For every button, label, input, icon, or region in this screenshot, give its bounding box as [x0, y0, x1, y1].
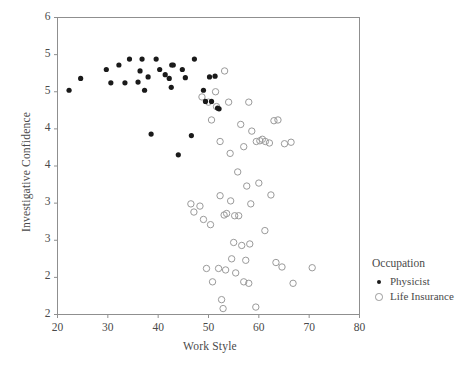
data-point [127, 56, 132, 61]
data-point [189, 133, 194, 138]
data-point [288, 139, 294, 145]
data-point [167, 76, 172, 81]
data-point [239, 242, 245, 248]
scatter-plot-figure: Investigative Confidence Work Style 6554… [0, 0, 471, 370]
x-tick-label: 70 [296, 321, 322, 333]
data-point [176, 152, 181, 157]
data-point [238, 121, 244, 127]
data-point [116, 62, 121, 67]
data-point [266, 140, 272, 146]
data-point [203, 99, 208, 104]
data-point [228, 256, 234, 262]
y-tick-label: 2 [25, 307, 51, 319]
data-point [230, 239, 236, 245]
data-point [171, 62, 176, 67]
data-point [279, 264, 285, 270]
data-point [248, 201, 254, 207]
data-point [209, 99, 214, 104]
x-axis-title: Work Style [140, 340, 280, 352]
data-point [236, 213, 242, 219]
data-point [203, 265, 209, 271]
legend-item-physicist[interactable]: Physicist [372, 275, 454, 290]
filled-circle-icon [372, 280, 386, 285]
data-point [244, 183, 250, 189]
data-point [216, 106, 221, 111]
data-point [212, 74, 217, 79]
data-point [197, 203, 203, 209]
plot-canvas [0, 0, 471, 370]
y-tick-label: 3 [25, 195, 51, 207]
data-point [309, 265, 315, 271]
data-point [104, 67, 109, 72]
data-point [154, 56, 159, 61]
x-tick-label: 80 [347, 321, 373, 333]
data-point [201, 88, 206, 93]
y-axis-tickmarks [54, 18, 58, 315]
x-tick-label: 40 [145, 321, 171, 333]
data-point [191, 209, 197, 215]
data-point [139, 56, 144, 61]
y-tick-label: 3 [25, 232, 51, 244]
y-tick-label: 2 [25, 269, 51, 281]
data-point [207, 74, 212, 79]
series-life-insurance-points [188, 68, 316, 312]
data-point [217, 138, 223, 144]
y-tick-label: 5 [25, 47, 51, 59]
data-point [137, 68, 142, 73]
data-point [225, 99, 231, 105]
data-point [268, 192, 274, 198]
data-point [212, 89, 218, 95]
x-tick-label: 20 [45, 321, 71, 333]
data-point [217, 193, 223, 199]
x-axis-tickmarks [58, 315, 360, 319]
data-point [262, 227, 268, 233]
data-point [241, 143, 247, 149]
data-point [281, 141, 287, 147]
data-point [122, 80, 127, 85]
x-tick-label: 50 [196, 321, 222, 333]
x-tick-label: 60 [246, 321, 272, 333]
data-point [290, 280, 296, 286]
data-point [183, 75, 188, 80]
legend-item-life-insurance[interactable]: Life Insurance [372, 290, 454, 305]
legend: Occupation Physicist Life Insurance [372, 255, 454, 305]
data-point [66, 88, 71, 93]
data-point [157, 67, 162, 72]
x-tick-label: 30 [95, 321, 121, 333]
data-point [215, 265, 221, 271]
data-point [243, 257, 249, 263]
data-point [108, 80, 113, 85]
y-tick-label: 4 [25, 158, 51, 170]
data-point [234, 169, 240, 175]
data-point [78, 76, 83, 81]
y-tick-label: 6 [25, 10, 51, 22]
data-point [220, 305, 226, 311]
data-point [142, 88, 147, 93]
data-point [227, 150, 233, 156]
data-point [275, 117, 281, 123]
legend-title: Occupation [372, 255, 454, 272]
data-point [218, 296, 224, 302]
data-point [180, 67, 185, 72]
series-physicist-points [66, 56, 221, 157]
data-point [200, 216, 206, 222]
data-point [253, 304, 259, 310]
data-point [249, 128, 255, 134]
data-point [163, 72, 168, 77]
data-point [188, 201, 194, 207]
data-point [256, 180, 262, 186]
y-tick-label: 5 [25, 84, 51, 96]
data-point [221, 68, 227, 74]
legend-item-label: Physicist [390, 274, 430, 290]
data-point [192, 56, 197, 61]
data-point [169, 85, 174, 90]
data-point [247, 241, 253, 247]
data-point [209, 279, 215, 285]
data-point [222, 267, 228, 273]
legend-item-label: Life Insurance [390, 289, 454, 305]
data-point [135, 79, 140, 84]
data-point [232, 270, 238, 276]
data-point [207, 221, 213, 227]
data-point [146, 74, 151, 79]
open-circle-icon [372, 293, 386, 301]
